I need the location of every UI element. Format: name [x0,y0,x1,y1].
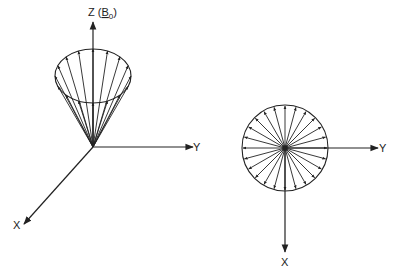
magnetization-diagram: Z (B0) Y X Y X [0,0,398,269]
magnetization-vector [93,86,128,147]
spin-vector [285,148,296,189]
z-axis-label: Z (B0) [88,6,117,21]
x-axis-label: X [13,219,21,231]
cone-panel: Z (B0) Y X [13,6,201,231]
spin-vector [285,148,326,159]
x-axis-label-right: X [281,256,289,268]
spin-vector [274,107,285,148]
cone-vectors [55,49,131,147]
y-axis-label: Y [193,141,201,153]
spin-vector [285,137,326,148]
spin-vector [285,107,296,148]
y-axis-label-right: Y [379,142,387,154]
fan-center [283,146,288,151]
spin-vector [244,148,285,159]
spin-vector [274,148,285,189]
fan-panel: Y X [242,105,387,268]
magnetization-vector [58,66,93,147]
magnetization-vector [93,66,128,147]
spin-vector [244,137,285,148]
x-axis [24,147,93,224]
